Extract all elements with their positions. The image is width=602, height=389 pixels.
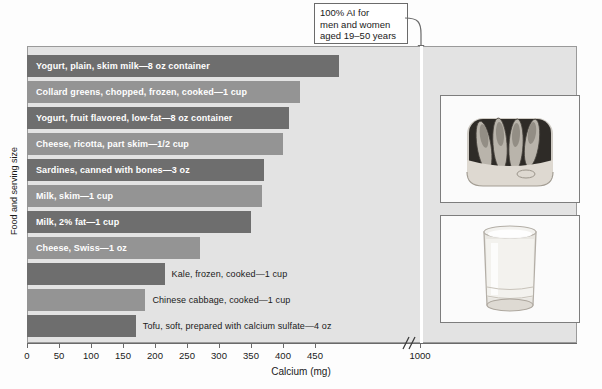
x-tick-label-50: 50	[54, 350, 65, 361]
bar-label-6: Milk, 2% fat—1 cup	[27, 217, 119, 227]
bar-label-3: Cheese, ricotta, part skim—1/2 cup	[27, 139, 189, 149]
x-tick-200	[155, 343, 156, 348]
x-tick-label-0: 0	[24, 350, 29, 361]
x-tick-label-300: 300	[211, 350, 227, 361]
bar-label-4: Sardines, canned with bones—3 oz	[27, 165, 190, 175]
bar-label-1: Collard greens, chopped, frozen, cooked—…	[27, 87, 247, 97]
figure-canvas: 100% AI for men and women aged 19–50 yea…	[0, 0, 602, 389]
x-tick-label-350: 350	[243, 350, 259, 361]
bar-0: Yogurt, plain, skim milk—8 oz container	[27, 55, 339, 77]
bar-7: Cheese, Swiss—1 oz	[27, 237, 200, 259]
x-tick-300	[219, 343, 220, 348]
bar-label-5: Milk, skim—1 cup	[27, 191, 113, 201]
bar-9: Chinese cabbage, cooked—1 cup	[27, 289, 145, 311]
x-tick-400	[283, 343, 284, 348]
x-tick-label-1000: 1000	[409, 350, 430, 361]
x-tick-label-150: 150	[115, 350, 131, 361]
glass-of-milk-photo	[440, 215, 580, 323]
bar-label-0: Yogurt, plain, skim milk—8 oz container	[27, 61, 210, 71]
x-tick-250	[187, 343, 188, 348]
x-tick-350	[251, 343, 252, 348]
ai-callout-box: 100% AI for men and women aged 19–50 yea…	[314, 3, 408, 44]
x-tick-label-200: 200	[147, 350, 163, 361]
x-tick-label-400: 400	[275, 350, 291, 361]
bar-4: Sardines, canned with bones—3 oz	[27, 159, 264, 181]
bar-2: Yogurt, fruit flavored, low-fat—8 oz con…	[27, 107, 289, 129]
x-tick-0	[27, 343, 28, 348]
bar-6: Milk, 2% fat—1 cup	[27, 211, 251, 233]
bar-3: Cheese, ricotta, part skim—1/2 cup	[27, 133, 283, 155]
x-axis-title: Calcium (mg)	[0, 366, 602, 377]
x-tick-150	[123, 343, 124, 348]
bar-label-2: Yogurt, fruit flavored, low-fat—8 oz con…	[27, 113, 232, 123]
x-tick-50	[59, 343, 60, 348]
bar-10: Tofu, soft, prepared with calcium sulfat…	[27, 315, 136, 337]
x-tick-100	[91, 343, 92, 348]
x-tick-label-100: 100	[83, 350, 99, 361]
sardines-can-photo	[440, 95, 580, 203]
ai-callout-line1: 100% AI for	[320, 7, 402, 19]
bar-label-7: Cheese, Swiss—1 oz	[27, 243, 127, 253]
x-axis-line	[27, 343, 577, 344]
bar-8: Kale, frozen, cooked—1 cup	[27, 263, 165, 285]
x-tick-450	[315, 343, 316, 348]
bar-label-8: Kale, frozen, cooked—1 cup	[165, 269, 288, 279]
x-tick-1000	[420, 343, 421, 348]
axis-break-icon	[400, 336, 418, 350]
bar-1: Collard greens, chopped, frozen, cooked—…	[27, 81, 300, 103]
x-tick-label-250: 250	[179, 350, 195, 361]
bar-label-9: Chinese cabbage, cooked—1 cup	[145, 295, 290, 305]
ai-reference-line	[420, 46, 423, 343]
bar-label-10: Tofu, soft, prepared with calcium sulfat…	[136, 321, 332, 331]
ai-callout-line3: aged 19–50 years	[320, 30, 402, 42]
bar-5: Milk, skim—1 cup	[27, 185, 262, 207]
ai-callout-line2: men and women	[320, 19, 402, 31]
x-tick-label-450: 450	[307, 350, 323, 361]
y-axis-title: Food and serving size	[9, 111, 19, 271]
